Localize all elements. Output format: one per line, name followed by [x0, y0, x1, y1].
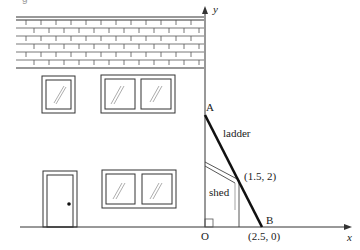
cropped-text-fragment: g	[22, 0, 28, 4]
window-lower	[102, 170, 176, 208]
shed-label: shed	[209, 187, 229, 198]
window-upper-left	[42, 76, 75, 113]
y-axis-label: y	[213, 4, 218, 15]
x-axis	[20, 224, 352, 230]
point-a-label: A	[206, 102, 214, 113]
x-axis-label: x	[347, 232, 352, 243]
ladder-label: ladder	[223, 128, 250, 139]
door	[43, 171, 77, 227]
diagram-canvas	[0, 0, 360, 250]
origin-label: O	[201, 231, 209, 242]
window-upper-right	[101, 75, 175, 113]
point-b-label: B	[266, 215, 273, 226]
right-angle-marker	[205, 219, 213, 227]
brick-band	[16, 17, 204, 68]
contact-point-coords: (1.5, 2)	[244, 171, 276, 182]
point-b-coords: (2.5, 0)	[248, 231, 280, 242]
